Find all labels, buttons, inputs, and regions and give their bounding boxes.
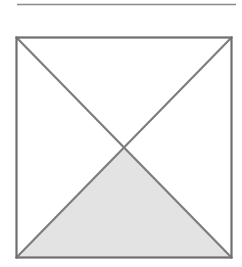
- square-diagonals-figure: [0, 0, 242, 267]
- figure-container: [0, 0, 242, 267]
